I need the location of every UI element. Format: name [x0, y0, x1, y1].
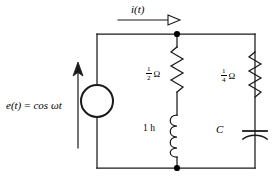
- top-node-dot: [174, 31, 180, 37]
- inductor-coil: [170, 115, 177, 157]
- resistor-middle-zigzag: [171, 47, 183, 92]
- resistor-middle-numerator: 1: [146, 66, 152, 74]
- current-arrow-head: [168, 15, 180, 25]
- source-expression-label: cos ωt: [33, 99, 61, 111]
- inductor-label: 1 h: [143, 124, 155, 134]
- resistor-middle-unit: Ω: [154, 70, 161, 79]
- source-function-label: e(t): [6, 99, 21, 111]
- circuit-schematic-svg: [0, 0, 277, 182]
- resistor-middle-fraction: 1 2: [146, 66, 152, 82]
- source-label: e(t)=cos ωt: [6, 100, 62, 111]
- circuit-diagram: e(t)=cos ωt i(t) 1 2 Ω 1 4 Ω 1 h C: [0, 0, 277, 182]
- resistor-right-fraction: 1 4: [221, 68, 227, 84]
- source-equals-sign: =: [21, 99, 33, 111]
- current-label: i(t): [131, 4, 144, 15]
- resistor-right-unit: Ω: [229, 72, 236, 81]
- resistor-right-numerator: 1: [221, 68, 227, 76]
- resistor-middle-label: 1 2 Ω: [146, 66, 160, 82]
- resistor-middle-denominator: 2: [146, 73, 152, 82]
- resistor-right-denominator: 4: [221, 75, 227, 84]
- bottom-node-dot: [174, 165, 180, 171]
- capacitor-label: C: [216, 124, 223, 135]
- resistor-right-label: 1 4 Ω: [221, 68, 235, 84]
- voltage-source-symbol: [81, 85, 113, 117]
